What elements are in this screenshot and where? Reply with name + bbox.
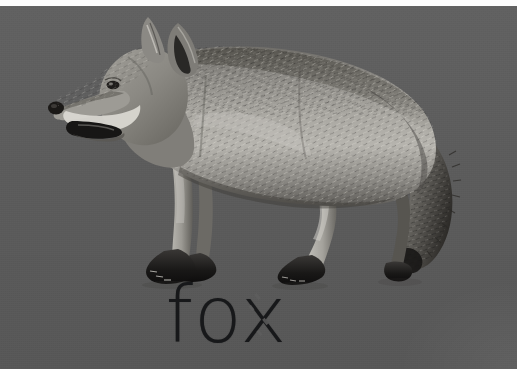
fox-photo bbox=[0, 5, 517, 295]
fox-head bbox=[48, 17, 198, 168]
top-white-strip bbox=[0, 0, 517, 6]
flashcard: fox bbox=[0, 0, 517, 369]
